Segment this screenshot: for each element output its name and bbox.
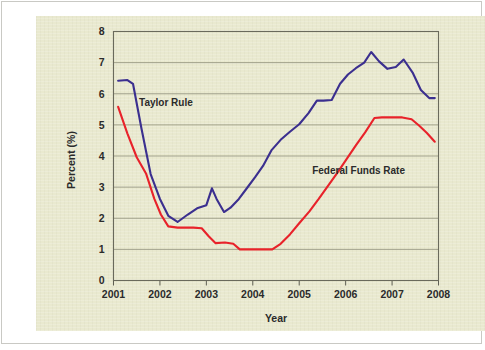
y-tick-label-4: 4 <box>99 150 105 162</box>
series-line-federal-funds-rate <box>118 107 435 250</box>
y-tick-label-5: 5 <box>99 119 105 131</box>
y-tick-label-3: 3 <box>99 181 105 193</box>
y-tick-label-2: 2 <box>99 212 105 224</box>
gridlines-group <box>114 63 439 250</box>
y-tick-label-6: 6 <box>99 88 105 100</box>
y-tick-label-0: 0 <box>99 274 105 286</box>
series-line-taylor-rule <box>118 52 435 222</box>
chart-plot: 012345678 200120022003200420052006200720… <box>0 0 485 350</box>
data-series-group <box>118 52 435 249</box>
series-label-federal-funds-rate: Federal Funds Rate <box>312 165 405 176</box>
chart-figure: 012345678 200120022003200420052006200720… <box>0 0 485 350</box>
y-axis-title: Percent (%) <box>65 131 77 189</box>
x-axis-tick-labels: 20012002200320042005200620072008 <box>102 288 451 300</box>
x-tick-label-2001: 2001 <box>102 288 126 300</box>
x-tick-label-2008: 2008 <box>427 288 451 300</box>
y-tick-label-7: 7 <box>99 56 105 68</box>
y-tick-label-8: 8 <box>99 25 105 37</box>
x-tick-label-2003: 2003 <box>195 288 219 300</box>
x-tick-label-2007: 2007 <box>380 288 404 300</box>
x-tick-label-2002: 2002 <box>148 288 172 300</box>
y-axis-tick-labels: 012345678 <box>99 25 105 286</box>
y-tick-label-1: 1 <box>99 243 105 255</box>
x-tick-label-2006: 2006 <box>334 288 358 300</box>
x-axis-title: Year <box>265 312 287 324</box>
x-axis-tickmarks <box>114 281 439 286</box>
x-tick-label-2004: 2004 <box>241 288 265 300</box>
x-tick-label-2005: 2005 <box>288 288 312 300</box>
series-label-taylor-rule: Taylor Rule <box>139 97 193 108</box>
